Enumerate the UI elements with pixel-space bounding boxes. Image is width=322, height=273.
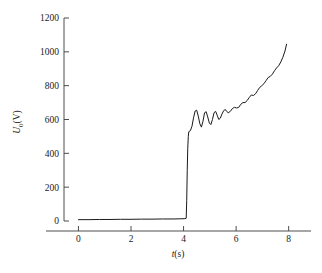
y-axis-tick-label: 0 <box>54 216 59 226</box>
y-axis-title-unit: (V) <box>12 110 23 123</box>
y-axis-tick-label: 1000 <box>40 47 59 57</box>
x-axis-tick-label: 2 <box>129 234 134 244</box>
y-axis-tick-label: 200 <box>45 183 60 193</box>
x-axis-tick-label: 0 <box>76 234 81 244</box>
line-chart-plot: 020040060080010001200 02468 t(s) U0(V) <box>0 0 322 273</box>
y-axis-tick-label: 400 <box>45 149 60 159</box>
x-axis-tick-label: 4 <box>181 234 186 244</box>
chart-figure: 020040060080010001200 02468 t(s) U0(V) <box>0 0 322 273</box>
y-axis-tick-label: 1200 <box>40 13 59 23</box>
x-axis-title-unit: (s) <box>174 249 184 260</box>
y-axis-tick-label: 600 <box>45 115 60 125</box>
chart-background <box>0 0 322 273</box>
y-axis-tick-label: 800 <box>45 81 60 91</box>
x-axis-title: t(s) <box>172 249 185 260</box>
x-axis-tick-label: 8 <box>286 234 291 244</box>
x-axis-tick-label: 6 <box>234 234 239 244</box>
